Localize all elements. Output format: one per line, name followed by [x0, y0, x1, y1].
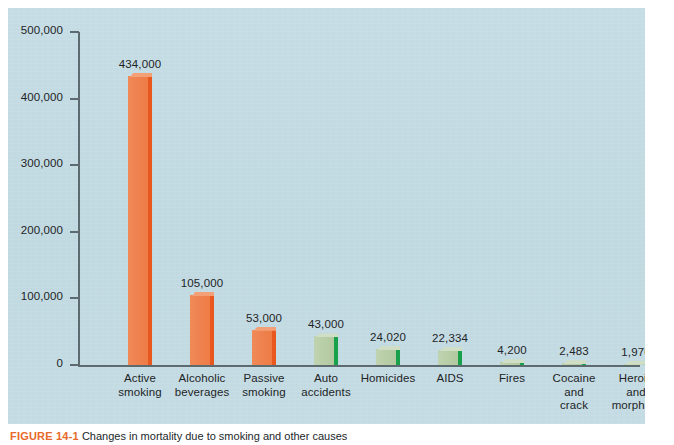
bar[interactable] [500, 362, 524, 365]
bar[interactable] [624, 364, 645, 365]
y-axis-tick-label: 0 [8, 357, 63, 369]
bar-value-label: 105,000 [181, 277, 223, 289]
bar[interactable] [128, 76, 152, 365]
category-label-line: accidents [287, 386, 365, 400]
y-axis-tick [70, 364, 79, 366]
bar-top-cap [438, 347, 462, 351]
bar[interactable] [376, 349, 400, 365]
bar-slot[interactable]: 2,483 [545, 360, 603, 365]
bar-front-face [376, 349, 396, 365]
bar-slot[interactable]: 24,020 [359, 346, 417, 365]
bar-wrap: 434,000 [111, 73, 169, 365]
bar-front-face [252, 330, 272, 365]
y-axis-tick [70, 164, 79, 166]
figure-caption: FIGURE 14-1 Changes in mortality due to … [10, 430, 670, 443]
y-axis-tick [70, 98, 79, 100]
y-axis-tick [70, 297, 79, 299]
bar-value-label: 4,200 [497, 344, 526, 356]
bar-side-face [458, 350, 462, 365]
bar-side-face [334, 336, 338, 365]
bar-value-label: 24,020 [370, 331, 406, 343]
bar-wrap: 105,000 [173, 292, 231, 365]
y-axis-tick-label: 500,000 [8, 24, 63, 36]
bar-slot[interactable]: 53,000 [235, 327, 293, 365]
bar-side-face [210, 295, 214, 365]
y-axis-tick [70, 31, 79, 33]
bar-slot[interactable]: 22,334 [421, 347, 479, 365]
category-label-line: morphine [597, 399, 645, 413]
bar-slot[interactable]: 434,000 [111, 73, 169, 365]
bar-slot[interactable]: 43,000 [297, 333, 355, 365]
y-axis-tick-label: 300,000 [8, 157, 63, 169]
bar[interactable] [252, 330, 276, 365]
bar-top-cap [562, 360, 586, 364]
y-axis-tick [70, 231, 79, 233]
plot-area: 0100,000200,000300,000400,000500,000 434… [8, 8, 645, 424]
bar-front-face [128, 76, 148, 365]
category-label-line: Heroin [597, 372, 645, 386]
chart-panel: 0100,000200,000300,000400,000500,000 434… [8, 8, 645, 424]
y-axis-tick-label: 200,000 [8, 224, 63, 236]
bar-front-face [190, 295, 210, 365]
bar-top-cap [190, 292, 214, 296]
bar-top-cap [624, 361, 645, 365]
bar-slot[interactable]: 1,976 [607, 361, 645, 365]
bar-top-cap [376, 346, 400, 350]
bar[interactable] [190, 295, 214, 365]
bar-top-cap [500, 359, 524, 363]
bar-side-face [396, 349, 400, 365]
bar-top-cap [314, 333, 338, 337]
bar-front-face [438, 350, 458, 365]
y-axis-line [78, 32, 80, 366]
bar-side-face [148, 76, 152, 365]
y-axis-tick-label: 100,000 [8, 290, 63, 302]
bar-value-label: 22,334 [432, 332, 468, 344]
bar-wrap: 2,483 [545, 360, 603, 365]
bar-wrap: 24,020 [359, 346, 417, 365]
figure-caption-tag: FIGURE 14-1 [10, 430, 79, 442]
x-axis-category-label: Heroinandmorphine [597, 372, 645, 413]
bar[interactable] [314, 336, 338, 365]
bar-value-label: 1,976 [621, 346, 645, 358]
bar-front-face [314, 336, 334, 365]
bar-wrap: 43,000 [297, 333, 355, 365]
category-label-line: and [597, 386, 645, 400]
bar-top-cap [128, 73, 152, 77]
bar-wrap: 1,976 [607, 361, 645, 365]
bar-wrap: 22,334 [421, 347, 479, 365]
bar-wrap: 53,000 [235, 327, 293, 365]
bar-value-label: 434,000 [119, 58, 161, 70]
y-axis-tick-label: 400,000 [8, 91, 63, 103]
bar-value-label: 2,483 [559, 345, 588, 357]
bar-top-cap [252, 327, 276, 331]
bar-slot[interactable]: 4,200 [483, 359, 541, 365]
x-axis-line [78, 365, 640, 367]
bar[interactable] [562, 363, 586, 365]
bar-value-label: 53,000 [246, 312, 282, 324]
bar[interactable] [438, 350, 462, 365]
bar-slot[interactable]: 105,000 [173, 292, 231, 365]
bar-side-face [272, 330, 276, 365]
figure-caption-text: Changes in mortality due to smoking and … [82, 430, 347, 442]
bar-value-label: 43,000 [308, 318, 344, 330]
bar-wrap: 4,200 [483, 359, 541, 365]
figure-root: 0100,000200,000300,000400,000500,000 434… [0, 0, 674, 445]
